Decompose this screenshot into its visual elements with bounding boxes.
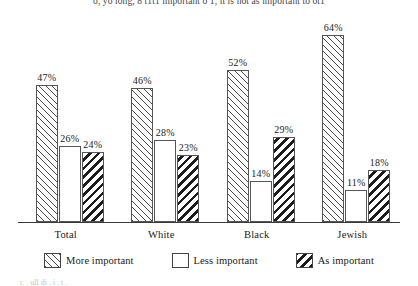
bar-black-more-important[interactable]: 52% — [227, 70, 249, 222]
legend-label-as-important: As important — [318, 254, 374, 267]
bar-value-label: 11% — [347, 177, 366, 189]
legend-item-more-important[interactable]: More important — [44, 253, 134, 268]
bar-white-as-important[interactable]: 23% — [177, 155, 199, 222]
bar-black-as-important[interactable]: 29% — [273, 137, 295, 222]
bar-jewish-as-important[interactable]: 18% — [368, 170, 390, 222]
x-axis-label-total: Total — [18, 228, 114, 241]
bar-value-label: 28% — [156, 127, 175, 139]
bar-group-black: 52%14%29% — [227, 18, 295, 222]
x-axis-label-black: Black — [209, 228, 305, 241]
bar-group-jewish: 64%11%18% — [322, 18, 390, 222]
empty-swatch — [172, 253, 189, 268]
bar-value-label: 46% — [133, 75, 152, 87]
bar-total-more-important[interactable]: 47% — [36, 85, 58, 222]
bar-chart-plot-area: 47%26%24%46%28%23%52%14%29%64%11%18% — [18, 18, 400, 222]
x-axis-label-jewish: Jewish — [305, 228, 401, 241]
bar-group-total: 47%26%24% — [36, 18, 104, 222]
bar-value-label: 64% — [324, 22, 343, 34]
bar-jewish-more-important[interactable]: 64% — [322, 35, 344, 222]
bar-group-white: 46%28%23% — [131, 18, 199, 222]
x-axis-label-white: White — [114, 228, 210, 241]
bar-total-less-important[interactable]: 26% — [59, 146, 81, 222]
hatch-forward-swatch — [44, 253, 61, 268]
bar-jewish-less-important[interactable]: 11% — [345, 190, 367, 222]
hatch-back-swatch — [296, 253, 313, 268]
bar-value-label: 47% — [37, 72, 56, 84]
bar-white-more-important[interactable]: 46% — [131, 88, 153, 222]
page-running-header: o, yo long, 8 t1t1 important o 1, it is … — [0, 0, 418, 6]
legend-label-more-important: More important — [66, 254, 134, 267]
bar-black-less-important[interactable]: 14% — [250, 181, 272, 222]
bar-white-less-important[interactable]: 28% — [154, 140, 176, 222]
chart-legend: More important Less important As importa… — [18, 250, 400, 270]
bar-value-label: 29% — [274, 124, 293, 136]
bar-value-label: 24% — [83, 139, 102, 151]
bar-value-label: 23% — [179, 142, 198, 154]
legend-item-less-important[interactable]: Less important — [172, 253, 258, 268]
page-running-footer: r. . ull di . i . t . — [0, 277, 418, 286]
legend-label-less-important: Less important — [194, 254, 258, 267]
x-axis-line — [18, 222, 400, 223]
bar-value-label: 52% — [228, 57, 247, 69]
bar-value-label: 18% — [370, 157, 389, 169]
bar-value-label: 14% — [251, 168, 270, 180]
legend-item-as-important[interactable]: As important — [296, 253, 374, 268]
bar-value-label: 26% — [60, 133, 79, 145]
bar-total-as-important[interactable]: 24% — [82, 152, 104, 222]
